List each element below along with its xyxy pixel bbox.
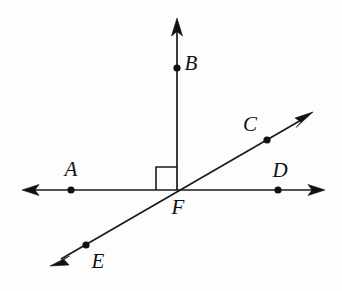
point-dot-B (173, 64, 180, 71)
point-label-B: B (185, 51, 198, 75)
point-dot-A (67, 186, 74, 193)
point-label-F: F (171, 195, 185, 219)
point-label-D: D (271, 158, 287, 182)
point-label-E: E (91, 249, 105, 273)
point-dot-E (82, 241, 89, 248)
geometry-diagram: A B C D E F (0, 0, 342, 291)
right-angle-icon (156, 167, 177, 190)
vertical-ray-FB (172, 18, 183, 190)
point-dot-C (263, 136, 270, 143)
arrow-head-lower-left-southwest (50, 256, 70, 266)
point-dot-D (274, 186, 281, 193)
point-label-C: C (243, 112, 258, 136)
point-label-A: A (63, 157, 78, 181)
arrow-head-upper-right-northeast (295, 112, 313, 128)
diagonal-line-EC (50, 112, 313, 266)
geometry-canvas: A B C D E F (0, 0, 342, 291)
